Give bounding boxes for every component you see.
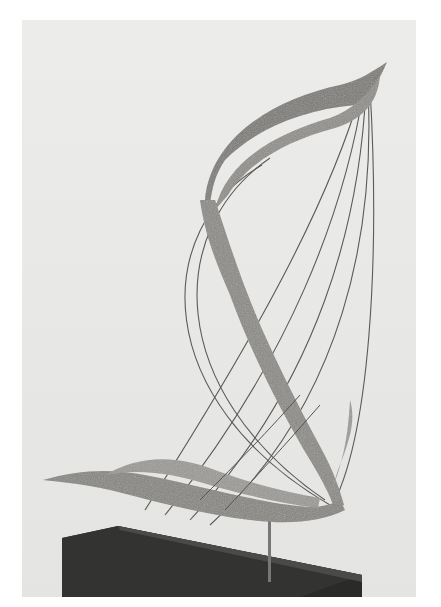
sculpture-photo — [22, 20, 416, 597]
sculpture-illustration — [22, 20, 416, 597]
